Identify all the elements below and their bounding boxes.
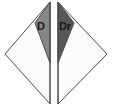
left-half-diamond-group	[5, 2, 50, 104]
right-half-diamond-group	[58, 2, 107, 104]
right-shape-label: Dr	[59, 21, 71, 32]
half-diamond-diagram	[0, 0, 113, 108]
figure-canvas: D Dr	[0, 0, 113, 108]
left-shape-label: D	[37, 21, 45, 32]
